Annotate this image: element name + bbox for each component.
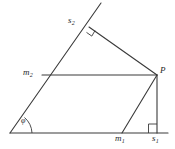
- right-angle-marker-s1: [149, 124, 158, 133]
- label-p: P: [160, 66, 166, 75]
- right-angle-marker-s2: [87, 31, 96, 36]
- label-angle-phi: φ: [21, 117, 25, 125]
- label-m2: m2: [23, 68, 33, 77]
- label-m1: m1: [115, 134, 125, 143]
- diagonal-s2-to-p: [89, 27, 157, 75]
- geometry-figure: s2 m2 P m1 s1 φ: [0, 0, 175, 149]
- label-s2: s2: [68, 16, 75, 25]
- label-s1: s1: [152, 134, 159, 143]
- angle-arc-phi: [25, 118, 33, 134]
